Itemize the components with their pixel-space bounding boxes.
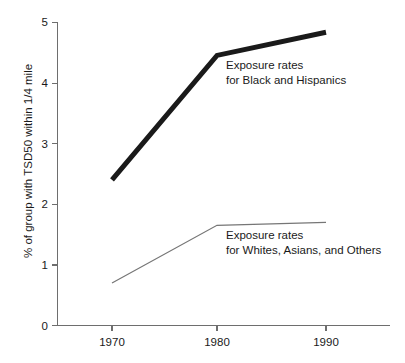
annotation-black-hispanics-line2: for Black and Hispanics <box>226 73 346 88</box>
annotation-whites-asians-others-line2: for Whites, Asians, and Others <box>226 243 381 258</box>
x-tick-label-1980: 1980 <box>204 336 230 348</box>
line-chart: 5 4 3 2 1 0 1970 1980 1990 % of group wi… <box>0 0 405 363</box>
y-axis-ticks <box>52 23 58 326</box>
y-axis-title: % of group with TSD50 within 1/4 mile <box>22 0 34 258</box>
y-tick-label-3: 3 <box>42 138 48 150</box>
x-axis-ticks <box>112 326 326 332</box>
x-tick-label-1970: 1970 <box>99 336 125 348</box>
series-line-black-hispanics <box>112 32 326 180</box>
annotation-whites-asians-others: Exposure rates for Whites, Asians, and O… <box>226 228 381 258</box>
annotation-black-hispanics-line1: Exposure rates <box>226 58 346 73</box>
y-tick-label-5: 5 <box>42 16 48 28</box>
annotation-black-hispanics: Exposure rates for Black and Hispanics <box>226 58 346 88</box>
y-tick-label-1: 1 <box>42 259 48 271</box>
plot-area: 5 4 3 2 1 0 1970 1980 1990 <box>0 0 405 363</box>
y-tick-label-0: 0 <box>42 320 48 332</box>
annotation-whites-asians-others-line1: Exposure rates <box>226 228 381 243</box>
y-tick-label-2: 2 <box>42 198 48 210</box>
y-tick-label-4: 4 <box>42 77 49 89</box>
x-tick-label-1990: 1990 <box>313 336 339 348</box>
